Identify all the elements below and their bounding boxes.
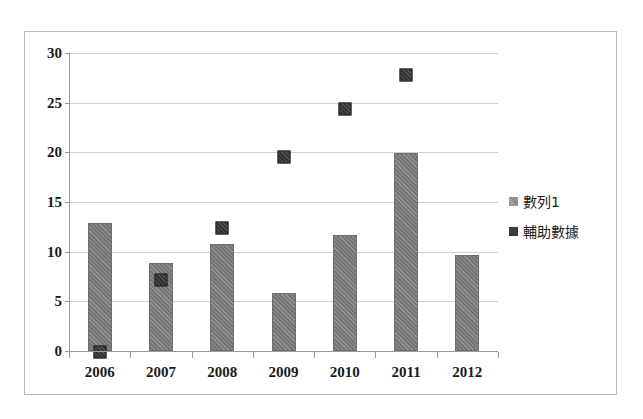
y-tick-mark-25 [65,103,70,104]
y-tick-label-0: 0 [55,343,63,360]
y-tick-mark-5 [65,301,70,302]
y-tick-label-5: 5 [55,293,63,310]
y-tick-mark-15 [65,202,70,203]
x-tick-mark-5 [375,352,376,358]
y-tick-label-25: 25 [47,94,62,111]
x-tick-label-2010: 2010 [330,364,360,381]
x-tick-mark-0 [69,352,70,358]
aux-marker-2009 [277,151,290,164]
x-tick-label-2009: 2009 [269,364,299,381]
gridline-25 [69,103,498,104]
y-tick-mark-20 [65,152,70,153]
aux-marker-2008 [216,221,229,234]
y-tick-mark-10 [65,252,70,253]
bar-2008 [210,244,234,351]
y-tick-label-20: 20 [47,144,62,161]
x-tick-label-2011: 2011 [391,364,420,381]
y-tick-label-15: 15 [47,194,62,211]
chart-legend: 數列1 輔助數據 [509,191,579,241]
series1-swatch-icon [509,197,518,206]
x-axis-line [69,351,498,352]
bar-2010 [333,235,357,351]
aux-marker-2011 [400,68,413,81]
gridline-15 [69,202,498,203]
bar-2006 [88,223,112,351]
x-tick-label-2008: 2008 [207,364,237,381]
aux-marker-2010 [338,102,351,115]
x-tick-mark-3 [253,352,254,358]
legend-label-aux-data: 輔助數據 [523,221,579,241]
x-tick-mark-7 [498,352,499,358]
x-tick-label-2007: 2007 [146,364,176,381]
y-tick-label-30: 30 [47,45,62,62]
chart-frame: 051015202530 200620072008200920102011201… [24,31,617,395]
plot-area: 051015202530 200620072008200920102011201… [69,53,498,351]
legend-entry-series1: 數列1 [509,191,579,211]
x-tick-mark-4 [314,352,315,358]
y-tick-label-10: 10 [47,243,62,260]
legend-entry-aux-data: 輔助數據 [509,221,579,241]
bar-2012 [455,255,479,351]
bar-2011 [394,153,418,351]
x-tick-mark-6 [437,352,438,358]
gridline-10 [69,252,498,253]
x-tick-mark-1 [130,352,131,358]
aux-marker-2007 [154,274,167,287]
x-tick-mark-2 [192,352,193,358]
x-tick-label-2006: 2006 [85,364,115,381]
gridline-30 [69,53,498,54]
legend-label-series1: 數列1 [523,191,560,211]
aux-data-swatch-icon [509,227,518,236]
bar-2009 [272,293,296,351]
y-tick-mark-30 [65,53,70,54]
x-tick-label-2012: 2012 [452,364,482,381]
